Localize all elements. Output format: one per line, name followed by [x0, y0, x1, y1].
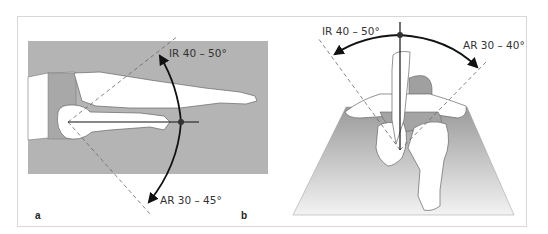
panel-b: IR 40 – 50° AR 30 – 40° b	[241, 22, 525, 221]
pivot-dot-a	[178, 119, 184, 125]
ar-label-a: AR 30 – 45°	[160, 194, 222, 206]
ar-label-b: AR 30 – 40°	[463, 39, 525, 51]
pivot-dot-b	[397, 32, 403, 38]
ir-label-a: IR 40 – 50°	[169, 47, 227, 59]
hip-rotation-figure: IR 40 – 50° AR 30 – 45° a IR 40 – 50° AR…	[0, 0, 548, 234]
panel-letter-a: a	[35, 210, 41, 221]
panel-letter-b: b	[241, 210, 247, 221]
ir-label-b: IR 40 – 50°	[322, 25, 380, 37]
panel-a: IR 40 – 50° AR 30 – 45° a	[28, 36, 268, 221]
rotation-arc-ir-b	[335, 35, 400, 54]
